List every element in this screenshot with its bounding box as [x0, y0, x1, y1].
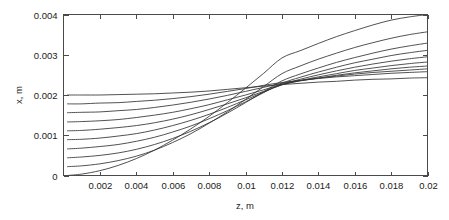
x-axis-title: z, m: [236, 200, 254, 211]
y-tick-label: 0: [52, 171, 57, 182]
chart-figure: 0.0020.0040.0060.0080.010.0120.0140.0160…: [0, 0, 449, 220]
y-tick-label: 0.001: [34, 130, 58, 141]
y-tick-label: 0.002: [34, 90, 58, 101]
x-tick-label: 0.004: [125, 180, 149, 191]
line-chart: 0.0020.0040.0060.0080.010.0120.0140.0160…: [0, 0, 449, 220]
x-tick-label: 0.016: [344, 180, 368, 191]
x-tick-label: 0.02: [419, 180, 438, 191]
x-tick-label: 0.012: [271, 180, 295, 191]
y-tick-label: 0.003: [34, 50, 58, 61]
x-tick-label: 0.018: [380, 180, 404, 191]
y-axis-title: x, m: [13, 86, 24, 104]
x-tick-label: 0.002: [89, 180, 113, 191]
x-tick-label: 0.006: [162, 180, 186, 191]
x-tick-label: 0.01: [237, 180, 256, 191]
y-tick-label: 0.004: [34, 10, 58, 21]
x-tick-label: 0.014: [307, 180, 331, 191]
x-tick-label: 0.008: [198, 180, 222, 191]
